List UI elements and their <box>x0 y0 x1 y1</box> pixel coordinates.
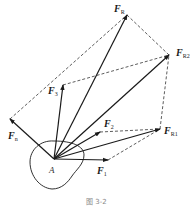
force-label-f2: F2 <box>103 118 114 130</box>
dashed-line <box>127 15 169 55</box>
force-label-fr: FR <box>113 3 125 15</box>
force-label-fr2: FR2 <box>175 47 190 59</box>
force-polygon-diagram: F1F2F3FnFR1FR2FR A 图 3-2 <box>0 0 195 206</box>
force-vectors <box>10 15 169 160</box>
figure-caption: 图 3-2 <box>86 198 107 206</box>
dashed-line <box>160 55 169 129</box>
dashed-line <box>108 129 160 160</box>
force-label-fn: Fn <box>7 130 18 142</box>
force-label-fr1: FR1 <box>163 125 178 137</box>
force-label-f1: F1 <box>96 165 107 177</box>
point-a-label: A <box>48 165 55 175</box>
rigid-body-outline <box>30 141 84 189</box>
dashed-line <box>10 15 127 119</box>
force-arrow-f1 <box>54 159 108 160</box>
force-label-f3: F3 <box>47 85 58 97</box>
force-arrow-fr2 <box>54 55 169 159</box>
force-labels: F1F2F3FnFR1FR2FR <box>7 3 190 177</box>
